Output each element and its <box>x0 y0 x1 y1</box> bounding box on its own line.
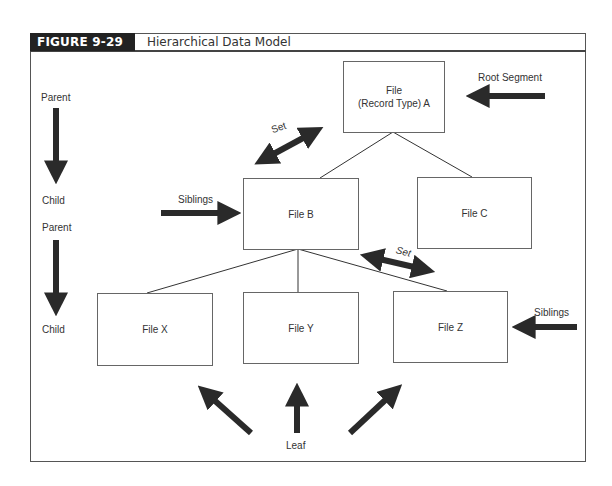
node-file-b: File B <box>243 178 359 250</box>
parent-label-2: Parent <box>42 222 71 233</box>
leaf-arrow-right <box>350 390 396 433</box>
siblings-label-left: Siblings <box>178 194 213 205</box>
set-arrow-upper <box>268 131 316 157</box>
root-segment-label: Root Segment <box>478 72 542 83</box>
node-root-line1: File <box>358 84 430 97</box>
node-file-y: File Y <box>243 292 359 364</box>
leaf-label: Leaf <box>286 440 305 451</box>
node-file-z: File Z <box>393 291 508 363</box>
siblings-label-right: Siblings <box>534 307 569 318</box>
set-arrow-lower <box>375 258 427 270</box>
child-label-1: Child <box>42 195 65 206</box>
leaf-arrow-left <box>204 391 251 433</box>
node-root-file-a: File (Record Type) A <box>343 61 445 133</box>
node-root-line2: (Record Type) A <box>358 97 430 110</box>
child-label-2: Child <box>42 324 65 335</box>
node-file-c: File C <box>417 177 532 249</box>
parent-label-1: Parent <box>41 92 70 103</box>
node-file-x: File X <box>97 293 213 366</box>
